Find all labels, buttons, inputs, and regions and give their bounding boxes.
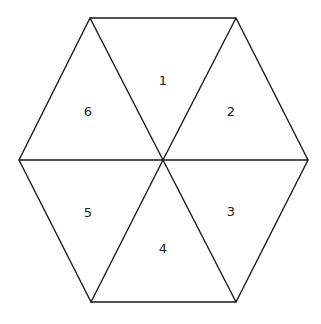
spoke-top-right: [163, 18, 236, 160]
triangle-labels: 1 2 3 4 5 6: [84, 73, 235, 256]
spoke-top-left: [90, 18, 163, 160]
spoke-bottom-left: [91, 160, 163, 302]
triangle-label-2: 2: [227, 104, 235, 119]
hexagon-diagram: 1 2 3 4 5 6: [0, 0, 321, 324]
triangle-label-5: 5: [84, 205, 92, 220]
spoke-bottom-right: [163, 160, 236, 302]
triangle-label-4: 4: [159, 241, 167, 256]
spokes: [19, 18, 308, 302]
triangle-label-3: 3: [227, 204, 235, 219]
triangle-label-6: 6: [84, 104, 92, 119]
triangle-label-1: 1: [159, 73, 167, 88]
